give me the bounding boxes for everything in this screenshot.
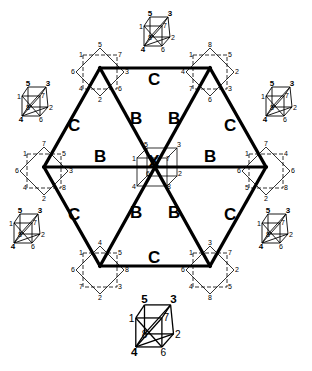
side-cube-edge	[22, 87, 28, 96]
cube-vertex-number: 4	[79, 85, 83, 92]
center-cube-number: 3	[177, 141, 181, 148]
cube-vertex-number: 1	[189, 249, 193, 256]
cube-vertex-number: 3	[208, 239, 212, 246]
cube-vertex-number: 5	[118, 249, 122, 256]
cube-vertex-number: 7	[189, 85, 193, 92]
side-cube-edge	[168, 17, 170, 37]
label-c-top: C	[148, 70, 160, 89]
cube-vertex-number: 7	[79, 283, 83, 290]
side-cube-number: 8	[270, 104, 274, 111]
side-cube-number: 6	[283, 116, 287, 123]
side-cube-number: 8	[18, 231, 22, 238]
cube-vertex-number: 7	[264, 140, 268, 147]
side-cube-number: 6	[161, 347, 167, 358]
side-cube-edge	[262, 214, 268, 223]
side-cube-upper-left: 53178246	[17, 79, 53, 124]
cube-vertex-number: 2	[264, 195, 268, 202]
label-b-right: B	[204, 147, 216, 166]
side-cube-number: 5	[141, 292, 148, 305]
side-cube-number: 4	[131, 345, 138, 358]
center-cube-number: 6	[146, 170, 150, 177]
cube-vertex-number: 7	[118, 51, 122, 58]
cube-vertex-number: 8	[208, 41, 212, 48]
side-cube-number: 8	[26, 104, 30, 111]
side-cube-number: 1	[17, 93, 21, 100]
side-cube-number: 3	[170, 292, 177, 305]
side-cube-number: 8	[148, 34, 152, 41]
edge-upper-right	[210, 68, 266, 167]
side-cube-number: 1	[129, 313, 135, 324]
cube-vertex-number: 5	[228, 283, 232, 290]
cube-vertex-number: 5	[228, 51, 232, 58]
side-cube-lower-right: 53178246	[257, 206, 293, 251]
cube-vertex-number: 2	[235, 68, 239, 75]
label-b-lr: B	[168, 203, 180, 222]
cube-vertex-number: 6	[71, 266, 75, 273]
side-cube-number: 5	[26, 79, 31, 88]
cube-vertex-number: 6	[181, 266, 185, 273]
cube-vertex-number: 4	[284, 150, 288, 157]
cube-vertex-number: 2	[235, 266, 239, 273]
side-cube-number: 3	[168, 9, 173, 18]
cube-vertex-number: 8	[62, 184, 66, 191]
side-cube-number: 1	[257, 220, 261, 227]
vertex-cube-top-left: 15763426	[71, 41, 129, 103]
cube-vertex-number: 8	[208, 294, 212, 301]
cube-vertex-number: 3	[69, 167, 73, 174]
cube-vertex-number: 2	[42, 195, 46, 202]
center-cube-number: 2	[178, 170, 182, 177]
side-cube-edge	[290, 87, 292, 107]
side-cube-edge	[38, 214, 40, 234]
side-cube-number: 4	[259, 242, 264, 251]
label-c-bottom: C	[148, 248, 160, 267]
cube-vertex-number: 8	[284, 184, 288, 191]
cube-vertex-number: 7	[42, 140, 46, 147]
side-cube-number: 4	[11, 242, 16, 251]
cube-vertex-number: 7	[228, 249, 232, 256]
cube-vertex-number: 6	[291, 167, 295, 174]
side-cube-edge	[266, 87, 272, 96]
side-cube-edge	[136, 305, 145, 318]
side-cube-number: 6	[39, 116, 43, 123]
cube-vertex-number: 6	[118, 85, 122, 92]
side-cube-number: 6	[161, 46, 165, 53]
cube-vertex-number: 6	[71, 68, 75, 75]
label-b-ul: B	[130, 109, 142, 128]
label-c-lower-right: C	[224, 205, 236, 224]
side-cube-number: 2	[293, 104, 297, 111]
vertex-cube-top-right: 18542763	[181, 41, 239, 103]
side-cube-top: 53178246	[139, 9, 175, 54]
cube-vertex-number: 4	[181, 68, 185, 75]
label-b-ll: B	[130, 203, 142, 222]
vertex-cube-left: 17563428	[15, 140, 73, 202]
cube-vertex-number: 6	[208, 96, 212, 103]
cube-vertex-number: 1	[79, 249, 83, 256]
side-cube-number: 7	[33, 219, 37, 226]
cube-vertex-number: 4	[189, 283, 193, 290]
edge-lower-right	[210, 167, 266, 266]
side-cube-number: 2	[171, 34, 175, 41]
side-cube-number: 7	[281, 219, 285, 226]
side-cube-bottom: 53178246	[129, 292, 181, 357]
cube-vertex-number: 3	[228, 85, 232, 92]
cube-vertex-number: 2	[98, 96, 102, 103]
side-cube-edge	[46, 87, 48, 107]
cube-vertex-number: 6	[237, 167, 241, 174]
cube-vertex-number: 3	[118, 283, 122, 290]
vertex-cube-bottom-right: 13762485	[181, 239, 239, 301]
cube-vertex-number: 1	[23, 150, 27, 157]
cube-vertex-number: 5	[245, 184, 249, 191]
hexagon-diagram: C C C C C C B B B B B B 1576342618542763…	[0, 0, 312, 371]
cube-vertex-number: 4	[98, 239, 102, 246]
side-cube-upper-right: 53178246	[261, 79, 297, 124]
side-cube-number: 5	[148, 9, 153, 18]
side-cube-number: 3	[46, 79, 51, 88]
side-cube-edge	[14, 214, 20, 223]
label-c-upper-right: C	[224, 116, 236, 135]
center-cube-number: 1	[132, 155, 136, 162]
side-cube-number: 4	[141, 45, 146, 54]
cube-vertex-number: 6	[15, 167, 19, 174]
side-cube-number: 5	[266, 206, 271, 215]
side-cube-number: 5	[18, 206, 23, 215]
side-cube-number: 7	[285, 92, 289, 99]
